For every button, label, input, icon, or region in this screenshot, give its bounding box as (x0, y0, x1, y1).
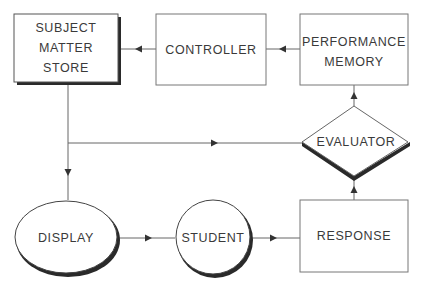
label-evaluator: EVALUATOR (302, 130, 410, 154)
arrow-head-icon (211, 140, 218, 147)
arrow-head-icon (145, 235, 152, 242)
arrow-head-icon (65, 169, 72, 176)
label-student: STUDENT (176, 226, 250, 250)
label-controller: CONTROLLER (156, 14, 266, 85)
label-performance-memory: PERFORMANCE MEMORY (300, 16, 408, 87)
label-response: RESPONSE (300, 224, 408, 248)
label-subject-matter-store: SUBJECT MATTER STORE (14, 14, 118, 82)
arrow-head-icon (351, 186, 358, 193)
label-display: DISPLAY (15, 226, 117, 250)
arrow-head-icon (279, 46, 286, 53)
arrow-head-icon (270, 235, 277, 242)
arrow-head-icon (135, 46, 142, 53)
arrow-head-icon (351, 92, 358, 99)
